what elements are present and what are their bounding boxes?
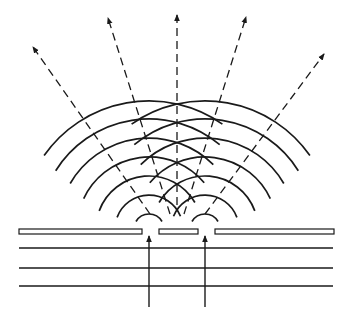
incident-rays: [149, 236, 205, 307]
ray-far-left-arrow: [33, 47, 150, 214]
barrier-plate-2: [159, 229, 198, 234]
barrier-plate-3: [215, 229, 334, 234]
barrier-plate-1: [19, 229, 142, 234]
wavefront-arc-left-slit: [44, 101, 222, 156]
diagram-canvas: [0, 0, 345, 323]
wavefront-arc-right-slit: [134, 119, 298, 171]
wavefront-arc-left-slit: [136, 214, 162, 222]
double-slit-diagram: [0, 0, 345, 323]
incident-plane-waves: [19, 248, 333, 286]
ray-far-right-arrow: [205, 54, 324, 214]
wavefront-arc-left-slit: [84, 157, 205, 199]
ray-right-arrow: [184, 17, 246, 214]
wavefront-arc-right-slit: [192, 214, 218, 222]
ray-left-arrow: [108, 18, 170, 214]
wavefront-arc-right-slit: [150, 157, 270, 199]
wavefront-arc-left-slit: [56, 119, 220, 171]
double-slit-barrier: [19, 229, 334, 234]
